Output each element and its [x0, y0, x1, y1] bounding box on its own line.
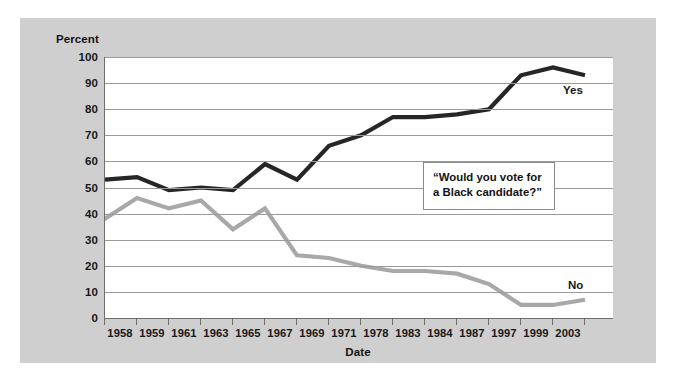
y-tick-label-90: 90 — [85, 77, 98, 89]
y-tick-label-40: 40 — [85, 208, 98, 220]
x-tick-1961 — [200, 319, 201, 325]
y-tick-label-60: 60 — [85, 155, 98, 167]
x-tick-1963 — [232, 319, 233, 325]
survey-question-annotation: “Would you vote for a Black candidate?” — [423, 162, 555, 210]
y-tick-label-80: 80 — [85, 103, 98, 115]
annotation-line-2: a Black candidate?” — [433, 185, 545, 200]
x-tick-label-1963: 1963 — [203, 327, 228, 339]
x-tick-label-1983: 1983 — [395, 327, 420, 339]
x-tick-1965 — [264, 319, 265, 325]
x-tick-label-1961: 1961 — [171, 327, 196, 339]
x-tick-1997 — [520, 319, 521, 325]
y-tick-label-30: 30 — [85, 234, 98, 246]
y-axis-tick-labels: 1009080706050403020100 — [52, 57, 98, 318]
y-tick-label-0: 0 — [92, 312, 99, 324]
x-tick-1959 — [168, 319, 169, 325]
y-axis-title: Percent — [56, 33, 99, 45]
x-tick-label-1987: 1987 — [459, 327, 484, 339]
x-axis-tick-labels: 1958195919611963196519671969197119781983… — [104, 327, 612, 345]
x-tick-1984 — [456, 319, 457, 325]
x-tick-origin — [104, 319, 105, 325]
x-tick-1983 — [424, 319, 425, 325]
x-tick-1978 — [392, 319, 393, 325]
x-tick-1971 — [360, 319, 361, 325]
y-tick-label-100: 100 — [79, 51, 99, 63]
x-tick-label-1999: 1999 — [523, 327, 548, 339]
x-axis-tick-marks — [104, 319, 612, 326]
y-tick-label-50: 50 — [85, 182, 98, 194]
x-tick-1999 — [552, 319, 553, 325]
y-tick-label-10: 10 — [85, 286, 98, 298]
x-tick-label-1965: 1965 — [235, 327, 260, 339]
annotation-line-1: “Would you vote for — [433, 170, 545, 185]
x-tick-label-1959: 1959 — [139, 327, 164, 339]
x-tick-1958 — [136, 319, 137, 325]
y-tick-label-70: 70 — [85, 129, 98, 141]
x-tick-label-1978: 1978 — [363, 327, 388, 339]
series-line-no — [105, 198, 585, 305]
series-label-yes: Yes — [563, 84, 583, 96]
x-tick-label-1958: 1958 — [107, 327, 132, 339]
x-tick-label-1969: 1969 — [299, 327, 324, 339]
figure-root: Percent 1009080706050403020100 195819591… — [0, 0, 676, 382]
x-tick-1967 — [296, 319, 297, 325]
series-label-no: No — [568, 279, 583, 291]
x-tick-1969 — [328, 319, 329, 325]
x-tick-1987 — [488, 319, 489, 325]
x-tick-label-1997: 1997 — [491, 327, 516, 339]
x-tick-label-1984: 1984 — [427, 327, 452, 339]
x-tick-label-2003: 2003 — [555, 327, 580, 339]
x-tick-label-1971: 1971 — [331, 327, 356, 339]
x-axis-title: Date — [104, 346, 612, 358]
x-tick-2003 — [584, 319, 585, 325]
y-tick-label-20: 20 — [85, 260, 98, 272]
x-tick-label-1967: 1967 — [267, 327, 292, 339]
